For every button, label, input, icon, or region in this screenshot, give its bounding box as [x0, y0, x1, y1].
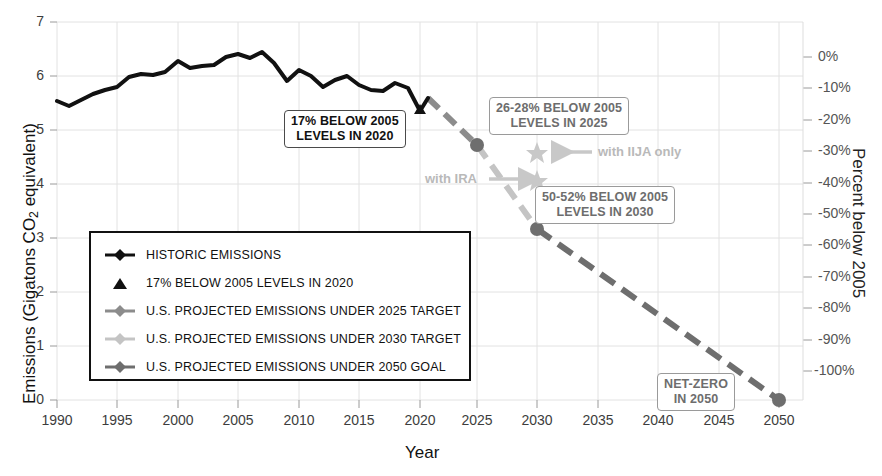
- y2-tick-30: -30%: [818, 142, 851, 158]
- legend-item-2030-target[interactable]: U.S. PROJECTED EMISSIONS UNDER 2030 TARG…: [103, 330, 461, 348]
- series-2025-target: [428, 98, 477, 145]
- legend-marker-line-diamond-2025: [103, 302, 137, 320]
- legend-marker-line-diamond-2030: [103, 330, 137, 348]
- annotation-ira: with IRA: [425, 171, 477, 186]
- y2-tick-100: -100%: [814, 362, 854, 378]
- x-axis-title: Year: [405, 443, 439, 463]
- callout-2020-line2: LEVELS IN 2020: [291, 129, 399, 144]
- y-axis-title: Emissions (Gigatons CO2 equivalent): [20, 123, 41, 404]
- y2-tick-0: 0%: [818, 48, 838, 64]
- y2-tick-20: -20%: [818, 111, 851, 127]
- legend-label-2020-triangle: 17% BELOW 2005 LEVELS IN 2020: [146, 276, 353, 290]
- x-tick-2035: 2035: [568, 412, 628, 428]
- callout-2025: 26-28% BELOW 2005 LEVELS IN 2025: [489, 97, 629, 135]
- marker-2030-point: [530, 222, 544, 236]
- callout-2030-line2: LEVELS IN 2030: [542, 205, 668, 220]
- legend-item-historic[interactable]: HISTORIC EMISSIONS: [103, 246, 281, 264]
- x-tick-2045: 2045: [689, 412, 749, 428]
- y2-tick-10: -10%: [818, 79, 851, 95]
- series-2030-target: [477, 145, 537, 229]
- legend-item-2025-target[interactable]: U.S. PROJECTED EMISSIONS UNDER 2025 TARG…: [103, 302, 461, 320]
- chart-legend: HISTORIC EMISSIONS 17% BELOW 2005 LEVELS…: [89, 231, 471, 381]
- legend-marker-line-diamond-historic: [103, 246, 137, 264]
- callout-2030: 50-52% BELOW 2005 LEVELS IN 2030: [535, 186, 675, 224]
- legend-label-2050-goal: U.S. PROJECTED EMISSIONS UNDER 2050 GOAL: [146, 360, 446, 374]
- x-tick-2040: 2040: [628, 412, 688, 428]
- x-tick-2015: 2015: [329, 412, 389, 428]
- y2-tick-50: -50%: [818, 205, 851, 221]
- legend-item-2050-goal[interactable]: U.S. PROJECTED EMISSIONS UNDER 2050 GOAL: [103, 358, 446, 376]
- x-axis-title-text: Year: [405, 443, 439, 462]
- x-tick-2025: 2025: [447, 412, 507, 428]
- y2-axis-title: Percent below 2005: [848, 148, 868, 298]
- y-tick-6: 6: [24, 67, 44, 83]
- y2-tick-60: -60%: [818, 236, 851, 252]
- legend-item-2020-triangle[interactable]: 17% BELOW 2005 LEVELS IN 2020: [103, 274, 353, 292]
- callout-2050-line1: NET-ZERO: [664, 377, 728, 392]
- y2-tick-80: -80%: [818, 299, 851, 315]
- x-tick-2050: 2050: [749, 412, 809, 428]
- x-tick-2020: 2020: [390, 412, 450, 428]
- x-tick-1995: 1995: [87, 412, 147, 428]
- callout-2025-line1: 26-28% BELOW 2005: [496, 101, 622, 116]
- legend-label-historic: HISTORIC EMISSIONS: [146, 248, 281, 262]
- x-tick-2000: 2000: [148, 412, 208, 428]
- y-tick-7: 7: [24, 13, 44, 29]
- emissions-chart: 7 6 5 4 3 2 1 0 0% -10% -20% -30% -40% -…: [0, 0, 882, 476]
- callout-2050-line2: IN 2050: [664, 392, 728, 407]
- callout-2020: 17% BELOW 2005 LEVELS IN 2020: [284, 110, 406, 148]
- callout-2020-line1: 17% BELOW 2005: [291, 114, 399, 129]
- y2-tick-70: -70%: [818, 268, 851, 284]
- series-historic-emissions: [57, 52, 428, 111]
- legend-marker-line-diamond-2050: [103, 358, 137, 376]
- x-tick-2005: 2005: [208, 412, 268, 428]
- y-axis-title-pre: Emissions (Gigatons CO: [20, 218, 39, 404]
- x-tick-2030: 2030: [507, 412, 567, 428]
- annotation-iija: with IIJA only: [598, 144, 681, 159]
- x-tick-1990: 1990: [27, 412, 87, 428]
- legend-label-2030-target: U.S. PROJECTED EMISSIONS UNDER 2030 TARG…: [146, 332, 461, 346]
- x-tick-2010: 2010: [269, 412, 329, 428]
- y2-axis-title-text: Percent below 2005: [849, 148, 868, 298]
- callout-2030-line1: 50-52% BELOW 2005: [542, 190, 668, 205]
- legend-marker-triangle: [103, 274, 137, 292]
- y-axis-title-post: equivalent): [20, 123, 39, 211]
- y-axis-title-sub: 2: [27, 211, 41, 218]
- legend-label-2025-target: U.S. PROJECTED EMISSIONS UNDER 2025 TARG…: [146, 304, 461, 318]
- marker-2050-point: [772, 393, 786, 407]
- y2-tick-40: -40%: [818, 174, 851, 190]
- marker-2025-point: [470, 138, 484, 152]
- y2-tick-90: -90%: [818, 331, 851, 347]
- callout-2025-line2: LEVELS IN 2025: [496, 116, 622, 131]
- callout-2050: NET-ZERO IN 2050: [657, 373, 735, 411]
